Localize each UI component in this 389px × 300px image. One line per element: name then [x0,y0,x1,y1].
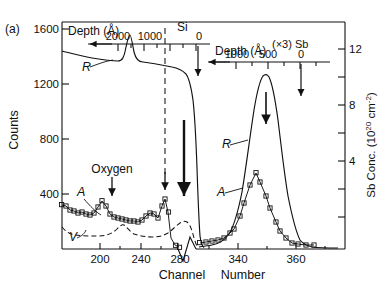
x-tick-280: 280 [170,253,189,265]
x-tick-360: 360 [286,253,305,265]
x-bottom-tick-labels: 200 240 280 340 360 [90,253,305,265]
y-left-tick-labels: 1600 1200 800 400 [33,23,59,200]
x-tick-240: 240 [131,253,150,265]
y-right-title-mid: cm [365,103,377,122]
y-left-tick-1200: 1200 [33,78,59,90]
y-right-axis-title: Sb Conc. (1020 cm-2) [364,92,378,198]
curve-A-right-leader [225,188,243,193]
curve-A-right-label: A [216,185,225,199]
panel-label: (a) [5,22,20,36]
y-right-title-base: 10 [365,131,377,144]
x-tick-200: 200 [90,253,109,265]
curve-R-left-label: R [82,60,91,74]
curve-R-right-label: R [222,137,231,151]
y-right-tick-4: 4 [349,155,356,167]
figure-rbs-spectrum: 1600 1200 800 400 Counts (a) 12 8 4 Sb C… [0,0,389,300]
curve-V-left-label: V [69,230,78,244]
y-left-axis-title: Counts [7,110,21,150]
y-left-ticks [62,29,69,194]
depth-axis-right: 1000 500 0 Depth (Å) (×3) Sb [208,38,330,96]
oxygen-label: Oxygen [91,162,132,176]
curve-A-left-label: A [76,185,85,199]
y-right-tick-12: 12 [349,43,362,55]
chart-svg: 1600 1200 800 400 Counts (a) 12 8 4 Sb C… [0,0,389,300]
x-axis-title-part2: Number [221,268,265,282]
series-A-right-line [200,173,314,245]
sb-scale-note: (×3) Sb [272,38,308,50]
series-R-right [199,75,338,248]
y-right-tick-labels: 12 8 4 [349,43,362,167]
curve-R-left-leader [90,60,113,67]
x-tick-340: 340 [228,253,247,265]
depth-left-axis-title: Depth (Å) [68,23,119,38]
y-left-tick-400: 400 [40,188,59,200]
x-axis-title: Channel Number [159,268,266,282]
y-right-title-end: ) [365,92,377,96]
y-right-title-main: Sb Conc. ( [365,143,377,197]
curve-R-right-leader [230,140,248,145]
series-A-left-line [62,199,179,247]
y-right-tick-8: 8 [349,99,355,111]
depth-right-axis-title: Depth (Å) [215,43,266,58]
series-A-left-markers [60,197,182,250]
y-right-ticks [338,49,345,217]
depth-left-tick-1000: 1000 [138,30,162,42]
x-bottom-ticks [100,243,325,249]
depth-left-tick-0: 0 [196,30,202,42]
si-material-label: Si [177,20,188,34]
curve-V-left-leader [77,230,86,238]
y-left-tick-1600: 1600 [33,23,59,35]
svg-text:Sb Conc. (1020 cm-2): Sb Conc. (1020 cm-2) [364,92,378,198]
y-left-tick-800: 800 [40,133,59,145]
x-axis-title-part1: Channel [159,268,206,282]
